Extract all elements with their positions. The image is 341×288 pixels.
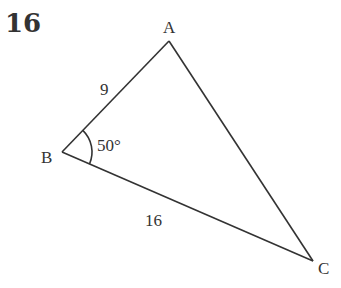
side-ab-length: 9 [100,80,109,99]
side-bc [62,152,313,261]
side-bc-length: 16 [145,211,162,230]
vertex-c-label: C [318,259,329,278]
angle-b-value: 50° [97,136,121,155]
side-ac [169,41,313,261]
triangle-diagram: A B C 9 16 50° [0,0,341,288]
vertex-b-label: B [41,148,52,167]
angle-b-arc [83,130,92,164]
vertex-a-label: A [163,18,176,37]
